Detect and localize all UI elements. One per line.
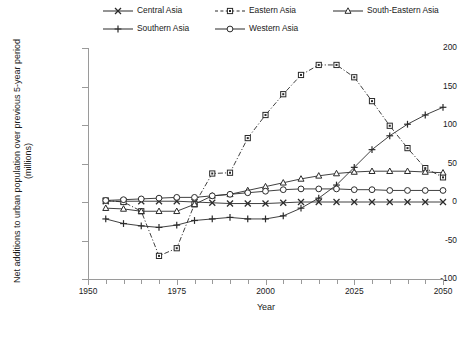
plus-marker	[386, 132, 393, 139]
triangle-marker	[103, 205, 109, 211]
plus-marker	[262, 216, 269, 223]
triangle-marker	[387, 168, 393, 174]
y-tick-label: -100	[381, 274, 457, 282]
legend-item-southern-asia[interactable]: Southern Asia	[103, 24, 189, 34]
x-marker	[156, 198, 162, 204]
circle-marker	[245, 190, 251, 196]
y-tick-label: 150	[381, 82, 457, 90]
triangle-marker	[138, 208, 144, 214]
square-marker	[405, 146, 410, 151]
x-tick-minor	[301, 279, 302, 284]
x-marker	[298, 199, 304, 205]
x-marker	[138, 198, 144, 204]
x-tick-major	[177, 279, 178, 285]
x-tick-minor	[390, 279, 391, 284]
plus-marker	[102, 216, 109, 223]
x-marker	[227, 201, 233, 207]
circle-marker	[422, 188, 428, 194]
plus-marker	[115, 26, 122, 33]
y-tick	[82, 202, 88, 203]
chart-legend: Central AsiaEastern AsiaSouth-Eastern As…	[0, 6, 457, 42]
x-tick-minor	[425, 279, 426, 284]
plus-marker	[173, 222, 180, 229]
triangle-marker	[156, 208, 162, 214]
square-marker	[121, 199, 126, 204]
square-marker	[281, 92, 286, 97]
square-marker	[334, 62, 339, 67]
x-marker	[103, 198, 109, 204]
x-tick-minor	[124, 279, 125, 284]
legend-label: Southern Asia	[137, 24, 189, 33]
triangle-marker	[245, 187, 251, 193]
plus-marker	[298, 205, 305, 212]
x-tick-label: 1950	[63, 287, 113, 295]
circle-marker	[405, 188, 411, 194]
circle-marker	[209, 193, 215, 199]
legend-item-south-eastern-asia[interactable]: South-Eastern Asia	[333, 6, 439, 16]
circle-marker	[440, 188, 446, 194]
y-tick	[82, 87, 88, 88]
triangle-marker	[351, 169, 357, 175]
legend-label: Eastern Asia	[249, 6, 296, 15]
x-marker	[192, 199, 198, 205]
triangle-marker	[174, 208, 180, 214]
plus-marker	[227, 214, 234, 221]
square-marker	[263, 112, 268, 117]
x-tick-label: 2000	[241, 287, 291, 295]
legend-label: South-Eastern Asia	[367, 6, 439, 15]
x-tick-minor	[283, 279, 284, 284]
y-axis-title-line2: (millions)	[23, 143, 33, 179]
x-marker	[174, 198, 180, 204]
circle-marker	[351, 187, 357, 193]
x-tick-label: 2025	[329, 287, 379, 295]
x-tick-minor	[372, 279, 373, 284]
y-tick	[82, 164, 88, 165]
triangle-marker	[121, 206, 127, 212]
triangle-marker	[369, 168, 375, 174]
x-marker	[121, 198, 127, 204]
plus-marker	[422, 112, 429, 119]
x-tick-minor	[337, 279, 338, 284]
square-marker	[352, 75, 357, 80]
square-marker	[156, 253, 161, 258]
legend-item-central-asia[interactable]: Central Asia	[103, 6, 182, 16]
plus-marker	[280, 212, 287, 219]
x-marker	[245, 201, 251, 207]
triangle-marker	[298, 176, 304, 182]
plus-marker	[333, 182, 340, 189]
legend-item-western-asia[interactable]: Western Asia	[215, 24, 298, 34]
y-tick-label: 50	[381, 159, 457, 167]
y-tick-label: 200	[381, 43, 457, 51]
triangle-marker	[209, 193, 215, 199]
x-tick-minor	[141, 279, 142, 284]
y-tick-label: 0	[381, 197, 457, 205]
x-tick-minor	[408, 279, 409, 284]
plus-marker	[244, 216, 251, 223]
square-marker	[298, 72, 303, 77]
x-tick-minor	[248, 279, 249, 284]
legend-key-plus-icon	[103, 24, 133, 34]
square-marker	[369, 99, 374, 104]
triangle-marker	[280, 180, 286, 186]
plus-marker	[191, 217, 198, 224]
x-marker	[209, 200, 215, 206]
square-marker	[103, 198, 108, 203]
circle-marker	[280, 187, 286, 193]
x-marker	[280, 200, 286, 206]
plus-marker	[315, 195, 322, 202]
legend-item-eastern-asia[interactable]: Eastern Asia	[215, 6, 296, 16]
circle-marker	[156, 195, 162, 201]
triangle-marker	[405, 168, 411, 174]
triangle-marker	[192, 201, 198, 207]
x-tick-major	[266, 279, 267, 285]
triangle-marker	[422, 169, 428, 175]
x-marker	[369, 199, 375, 205]
square-marker	[139, 209, 144, 214]
y-axis-title-line1: Net additions to urban population over p…	[12, 39, 22, 283]
x-marker	[115, 8, 121, 14]
x-tick-minor	[159, 279, 160, 284]
circle-marker	[121, 197, 127, 203]
x-marker	[263, 201, 269, 207]
series-south-eastern-asia	[103, 168, 446, 214]
